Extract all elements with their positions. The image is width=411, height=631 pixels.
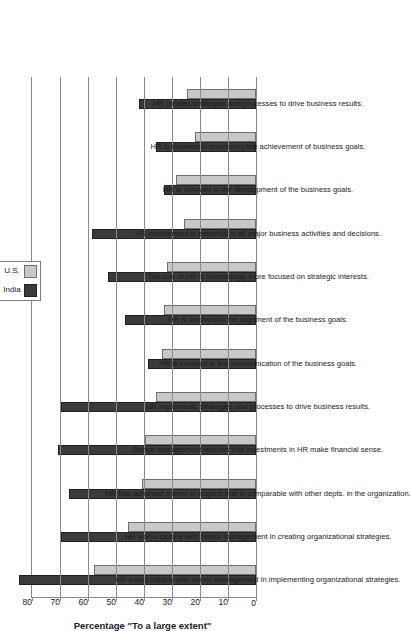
- axis-tick: [60, 597, 61, 601]
- axis-tick-label: 80: [23, 599, 32, 608]
- axis-tick: [228, 597, 229, 601]
- category-label-cell: HR creates strategies and processes to d…: [256, 78, 316, 121]
- axis-tick-label: 60: [79, 599, 88, 608]
- axis-tick-label: 20: [191, 599, 200, 608]
- bar-us: [142, 479, 256, 489]
- legend-item-us: U.S.: [8, 263, 37, 279]
- category-label: HR is involved in the development of the…: [163, 186, 353, 194]
- legend-label-india: India: [3, 286, 20, 294]
- category-label: The role of HR is increasingly more focu…: [147, 273, 369, 281]
- category-label-cell: Senior management realizes that investme…: [256, 425, 316, 468]
- axis-tick-label: 30: [163, 599, 172, 608]
- bar-us: [187, 89, 256, 99]
- category-label: HR is involved in monitoring the achieve…: [151, 143, 366, 151]
- category-label-cell: HR has achieved a level of respect that …: [256, 468, 316, 511]
- bar-us: [164, 305, 256, 315]
- category-label-cell: The role of HR is increasingly more focu…: [256, 251, 316, 294]
- category-label-cell: HR is involved in the communication of t…: [256, 338, 316, 381]
- axis-tick: [144, 597, 145, 601]
- bar-us: [167, 262, 256, 272]
- category-axis-labels: HR works closely with senior management …: [256, 78, 316, 598]
- axis-tick: [88, 597, 89, 601]
- category-label-cell: HR is involved in monitoring the achieve…: [256, 121, 316, 164]
- value-axis-title: Percentage "To a large extent": [74, 620, 212, 631]
- category-label: HR implements strategies and processes t…: [146, 403, 370, 411]
- gridline: [88, 77, 89, 597]
- category-label-cell: HR works closely with senior management …: [256, 511, 316, 554]
- gridline: [60, 77, 61, 597]
- gridline: [228, 77, 229, 597]
- legend-swatch-india: [24, 284, 37, 297]
- category-label-cell: HR involvement is essential in all major…: [256, 208, 316, 251]
- category-label-cell: HR is involved in the alignment of the b…: [256, 295, 316, 338]
- gridline: [200, 77, 201, 597]
- category-label: HR is involved in the alignment of the b…: [168, 316, 348, 324]
- category-label: HR involvement is essential in all major…: [135, 230, 381, 238]
- legend: India U.S.: [0, 261, 41, 301]
- axis-tick-label: 40: [135, 599, 144, 608]
- axis-tick-label: 70: [51, 599, 60, 608]
- legend-label-us: U.S.: [4, 267, 20, 275]
- category-label-cell: HR implements strategies and processes t…: [256, 381, 316, 424]
- axis-tick-label: 10: [219, 599, 228, 608]
- legend-swatch-us: [24, 265, 37, 278]
- category-label: HR works closely with senior management …: [116, 576, 401, 584]
- axis-tick: [116, 597, 117, 601]
- bar-us: [162, 349, 256, 359]
- category-label: HR is involved in the communication of t…: [159, 360, 357, 368]
- gridline: [172, 77, 173, 597]
- category-label-cell: HR is involved in the development of the…: [256, 165, 316, 208]
- plot-area: 01020304050607080: [31, 77, 257, 598]
- bar-us: [184, 219, 256, 229]
- axis-tick: [32, 597, 33, 601]
- gridline: [116, 77, 117, 597]
- legend-item-india: India: [8, 281, 37, 298]
- axis-tick-label: 50: [107, 599, 116, 608]
- category-label: Senior management realizes that investme…: [133, 446, 383, 454]
- gridline: [144, 77, 145, 597]
- category-label: HR creates strategies and processes to d…: [153, 100, 363, 108]
- bar-us: [128, 522, 256, 532]
- bar-us: [176, 175, 256, 185]
- axis-tick: [200, 597, 201, 601]
- bar-us: [156, 392, 256, 402]
- category-label: HR works closely with senior management …: [125, 533, 392, 541]
- bar-us: [94, 565, 256, 575]
- axis-tick: [172, 597, 173, 601]
- bar-us: [195, 132, 256, 142]
- axis-tick-label: 0: [251, 599, 256, 608]
- category-label: HR has achieved a level of respect that …: [105, 490, 411, 498]
- category-label-cell: HR works closely with senior management …: [256, 555, 316, 598]
